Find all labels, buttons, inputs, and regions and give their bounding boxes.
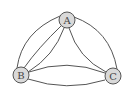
edge-a-c-outer bbox=[74, 17, 117, 69]
node-a: A bbox=[59, 12, 75, 28]
edge-b-c-lower bbox=[28, 79, 105, 86]
edges-a-c bbox=[69, 17, 117, 72]
edge-a-b-outer bbox=[17, 16, 60, 68]
node-b: B bbox=[13, 67, 29, 83]
graph-canvas: A B C bbox=[0, 0, 135, 91]
node-c-label: C bbox=[109, 71, 117, 82]
edges-b-c bbox=[28, 65, 105, 86]
node-a-label: A bbox=[62, 15, 71, 26]
node-b-label: B bbox=[17, 70, 24, 81]
node-c: C bbox=[105, 68, 121, 84]
edges-a-b bbox=[17, 16, 64, 72]
edge-b-c-upper bbox=[29, 65, 105, 73]
edge-a-b-middle bbox=[24, 25, 62, 68]
